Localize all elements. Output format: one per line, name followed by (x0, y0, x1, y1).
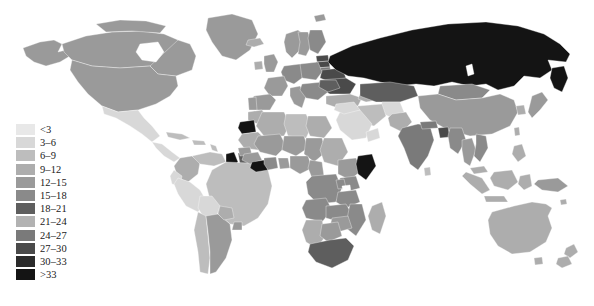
legend-swatch-8 (16, 230, 35, 241)
region-pacific-islands (560, 199, 567, 205)
region-india (398, 124, 434, 170)
legend-label-8: 24–27 (40, 230, 67, 241)
legend-label-10: 30–33 (40, 256, 67, 267)
legend-item: 30–33 (16, 255, 67, 268)
legend-swatch-3 (16, 164, 35, 175)
region-japan (528, 92, 548, 118)
legend-label-5: 15–18 (40, 190, 67, 201)
choropleth-figure: <3 3–6 6–9 9–12 12–15 15–18 18–21 21–24 (0, 0, 594, 306)
region-egypt (306, 116, 332, 138)
region-mexico (102, 106, 160, 142)
region-sri-lanka (424, 167, 431, 176)
legend-swatch-10 (16, 256, 35, 267)
region-ghana (278, 158, 290, 169)
legend-item: 12–15 (16, 176, 67, 189)
region-borneo (490, 170, 518, 190)
legend-label-1: 3–6 (40, 137, 56, 148)
region-china (418, 94, 518, 136)
legend-item: 15–18 (16, 189, 67, 202)
region-somalia (356, 154, 376, 180)
region-kazakhstan (360, 82, 418, 102)
legend-item: 3–6 (16, 136, 67, 149)
legend-label-11: >33 (40, 269, 57, 280)
legend-swatch-5 (16, 190, 35, 201)
region-sulawesi (518, 174, 532, 190)
region-malaysia (470, 166, 488, 174)
legend-item: <3 (16, 123, 67, 136)
region-russia (328, 22, 570, 90)
legend-swatch-6 (16, 203, 35, 214)
legend-label-6: 18–21 (40, 203, 67, 214)
legend-item: 9–12 (16, 163, 67, 176)
region-svalbard (314, 14, 326, 22)
legend-item: >33 (16, 268, 67, 281)
legend-label-2: 6–9 (40, 150, 56, 161)
region-greenland (206, 14, 258, 60)
region-java (484, 196, 508, 202)
region-papua-new-guinea (534, 178, 568, 192)
region-france (264, 76, 288, 96)
region-nepal (420, 121, 438, 129)
legend-label-4: 12–15 (40, 177, 67, 188)
region-tasmania (534, 257, 543, 265)
legend-item: 24–27 (16, 229, 67, 242)
region-mali (254, 134, 286, 156)
legend-item: 6–9 (16, 149, 67, 162)
world-map-container (0, 0, 594, 306)
legend-item: 18–21 (16, 202, 67, 215)
region-united-kingdom (264, 54, 278, 72)
region-portugal (248, 97, 257, 110)
region-hispaniola (192, 140, 206, 145)
region-philippines (512, 144, 526, 162)
legend-swatch-0 (16, 124, 35, 135)
region-central-america (152, 142, 180, 162)
legend-swatch-11 (16, 269, 35, 280)
region-thailand (462, 138, 476, 166)
region-argentina (206, 214, 232, 274)
region-ireland (254, 61, 263, 70)
region-canada-arctic (96, 20, 166, 33)
legend-swatch-7 (16, 216, 35, 227)
legend-swatch-9 (16, 243, 35, 254)
legend-swatch-4 (16, 177, 35, 188)
region-sumatra (462, 172, 490, 194)
region-western-sahara (238, 120, 256, 134)
region-finland (308, 30, 326, 54)
region-korea (516, 105, 526, 115)
region-vietnam (474, 134, 488, 162)
region-madagascar (368, 202, 386, 234)
legend-item: 21–24 (16, 215, 67, 228)
legend-swatch-2 (16, 150, 35, 161)
legend-label-3: 9–12 (40, 164, 61, 175)
legend: <3 3–6 6–9 9–12 12–15 15–18 18–21 21–24 (16, 123, 67, 281)
legend-swatch-1 (16, 137, 35, 148)
region-new-zealand (564, 244, 578, 258)
region-cuba (166, 132, 190, 140)
region-estonia (316, 55, 329, 62)
legend-label-9: 27–30 (40, 243, 67, 254)
region-australia (488, 202, 552, 254)
legend-label-7: 21–24 (40, 216, 67, 227)
region-russia-kamchatka (550, 66, 568, 92)
world-map (0, 0, 594, 306)
legend-item: 27–30 (16, 242, 67, 255)
legend-label-0: <3 (40, 124, 51, 135)
region-taiwan (514, 127, 520, 136)
region-lesser-antilles (210, 144, 218, 152)
